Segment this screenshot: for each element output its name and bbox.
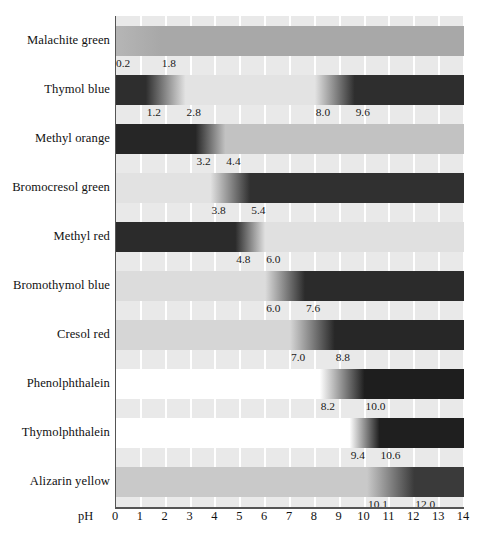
transition-endpoint-label: 8.0	[316, 106, 330, 118]
x-axis-tick-label: 9	[336, 509, 342, 524]
x-axis-tick-label: 14	[457, 509, 469, 524]
x-axis-tick-label: 10	[357, 509, 369, 524]
transition-endpoint-label: 10.0	[366, 400, 386, 412]
plot-area	[115, 16, 464, 507]
x-axis-tick-label: 7	[286, 509, 292, 524]
x-axis-tick-label: 13	[432, 509, 444, 524]
transition-endpoint-label: 4.8	[236, 253, 250, 265]
x-axis-tick-label: 12	[407, 509, 419, 524]
indicator-name-label: Cresol red	[57, 327, 110, 342]
transition-endpoint-label: 1.2	[147, 106, 161, 118]
indicator-band-row	[116, 75, 464, 105]
indicator-name-label: Thymol blue	[44, 82, 110, 97]
x-axis-tick-label: 1	[137, 509, 143, 524]
indicator-band-row	[116, 222, 464, 252]
x-axis-tick-label: 8	[311, 509, 317, 524]
indicator-name-label: Bromocresol green	[12, 180, 110, 195]
ph-indicator-chart: Malachite greenThymol blueMethyl orangeB…	[0, 0, 481, 540]
indicator-name-label: Phenolphthalein	[27, 376, 110, 391]
indicator-color-band	[116, 467, 464, 497]
indicator-band-row	[116, 369, 464, 399]
indicator-color-band	[116, 418, 464, 448]
indicator-name-label: Methyl orange	[35, 131, 110, 146]
transition-endpoint-label: 3.8	[211, 204, 225, 216]
transition-endpoint-label: 8.8	[336, 351, 350, 363]
indicator-color-band	[116, 271, 464, 301]
x-axis-tick-label: 5	[236, 509, 242, 524]
indicator-color-band	[116, 173, 464, 203]
indicator-name-label: Bromothymol blue	[13, 278, 110, 293]
indicator-name-label: Alizarin yellow	[30, 474, 110, 489]
indicator-color-band	[116, 320, 464, 350]
transition-endpoint-label: 2.8	[187, 106, 201, 118]
transition-endpoint-label: 9.4	[351, 449, 365, 461]
transition-endpoint-label: 7.6	[306, 302, 320, 314]
indicator-band-row	[116, 26, 464, 56]
indicator-band-row	[116, 173, 464, 203]
indicator-color-band	[116, 26, 464, 56]
x-axis-tick-label: 11	[382, 509, 394, 524]
indicator-name-label: Malachite green	[27, 33, 110, 48]
transition-endpoint-label: 1.8	[162, 57, 176, 69]
indicator-color-band	[116, 369, 464, 399]
transition-endpoint-label: 10.6	[380, 449, 400, 461]
transition-endpoint-label: 6.0	[266, 253, 280, 265]
transition-endpoint-label: 6.0	[266, 302, 280, 314]
x-axis-tick-label: 4	[211, 509, 217, 524]
indicator-name-label: Thymolphthalein	[22, 425, 110, 440]
transition-endpoint-label: 0.2	[116, 57, 130, 69]
indicator-band-row	[116, 418, 464, 448]
indicator-name-label: Methyl red	[53, 229, 110, 244]
transition-endpoint-label: 3.2	[197, 155, 211, 167]
x-axis-ticks: 01234567891011121314	[115, 509, 463, 531]
x-axis-tick-label: 6	[261, 509, 267, 524]
x-axis-tick-label: 3	[186, 509, 192, 524]
transition-endpoint-label: 7.0	[291, 351, 305, 363]
transition-endpoint-label: 9.6	[356, 106, 370, 118]
transition-endpoint-label: 4.4	[226, 155, 240, 167]
x-axis-tick-label: 0	[112, 509, 118, 524]
indicator-color-band	[116, 222, 464, 252]
x-axis-tick-label: 2	[162, 509, 168, 524]
x-axis-title: pH	[78, 509, 93, 524]
transition-endpoint-label: 8.2	[321, 400, 335, 412]
indicator-color-band	[116, 124, 464, 154]
indicator-band-row	[116, 467, 464, 497]
indicator-band-row	[116, 320, 464, 350]
indicator-color-band	[116, 75, 464, 105]
transition-endpoint-label: 5.4	[251, 204, 265, 216]
indicator-band-row	[116, 124, 464, 154]
indicator-band-row	[116, 271, 464, 301]
